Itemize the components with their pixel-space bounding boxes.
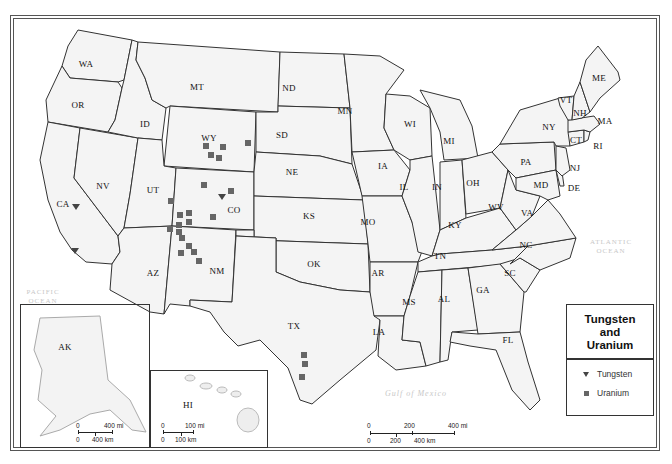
- uranium-marker-icon: [216, 155, 222, 161]
- main-scale-bar: 0 200 400 mi 0 200 400 km: [368, 422, 478, 446]
- label-SC: SC: [504, 268, 515, 278]
- label-VA: VA: [521, 208, 533, 218]
- label-OK: OK: [307, 259, 320, 269]
- label-ME: ME: [592, 73, 606, 83]
- state-AZ: [110, 226, 172, 314]
- label-AK: AK: [58, 342, 71, 352]
- uranium-marker-icon: [186, 210, 192, 216]
- uranium-marker-icon: [167, 226, 173, 232]
- label-IN: IN: [432, 182, 442, 192]
- label-IA: IA: [378, 161, 388, 171]
- label-WY: WY: [201, 133, 216, 143]
- label-ND: ND: [282, 83, 295, 93]
- uranium-marker-icon: [196, 258, 202, 264]
- label-NH: NH: [573, 108, 586, 118]
- uranium-marker-icon: [201, 182, 207, 188]
- state-NJ: [556, 146, 570, 176]
- label-CA: CA: [57, 199, 70, 209]
- state-FL: [450, 332, 540, 410]
- uranium-marker-icon: [208, 152, 214, 158]
- uranium-marker-icon: [176, 222, 182, 228]
- label-SD: SD: [276, 130, 288, 140]
- label-ID: ID: [140, 119, 150, 129]
- label-DE: DE: [568, 183, 580, 193]
- label-MI: MI: [443, 136, 454, 146]
- uranium-marker-icon: [299, 374, 305, 380]
- uranium-marker-icon: [177, 212, 183, 218]
- pacific-ocean-label: PACIFIC OCEAN: [26, 288, 59, 306]
- label-NM: NM: [210, 266, 225, 276]
- uranium-marker-icon: [179, 235, 185, 241]
- tungsten-marker-icon: [218, 194, 226, 200]
- state-CO: [172, 168, 254, 230]
- label-TX: TX: [288, 321, 300, 331]
- label-WA: WA: [79, 59, 93, 69]
- tungsten-marker-icon: [71, 248, 79, 254]
- label-LA: LA: [373, 327, 385, 337]
- uranium-marker-icon: [203, 143, 209, 149]
- tungsten-marker-icon: [72, 204, 80, 210]
- uranium-marker-icon: [191, 249, 197, 255]
- label-NV: NV: [96, 181, 109, 191]
- label-NE: NE: [286, 167, 298, 177]
- label-NY: NY: [542, 122, 555, 132]
- label-OR: OR: [72, 100, 85, 110]
- label-WI: WI: [404, 119, 416, 129]
- label-MN: MN: [338, 106, 353, 116]
- hawaii-scale-bar: 0 100 mi 0 100 km: [161, 422, 221, 444]
- label-HI: HI: [183, 400, 193, 410]
- state-WA: [62, 30, 132, 82]
- label-AZ: AZ: [147, 268, 159, 278]
- uranium-marker-icon: [186, 219, 192, 225]
- label-CT: CT: [570, 135, 582, 145]
- legend-item-tungsten: Tungsten: [581, 369, 653, 379]
- label-KY: KY: [448, 220, 461, 230]
- label-WV: WV: [488, 202, 503, 212]
- label-MO: MO: [361, 217, 376, 227]
- legend-item-uranium: Uranium: [581, 388, 653, 398]
- label-NC: NC: [520, 240, 533, 250]
- square-icon: [581, 391, 591, 396]
- label-FL: FL: [503, 335, 514, 345]
- label-AL: AL: [438, 294, 450, 304]
- atlantic-ocean-label: ATLANTIC OCEAN: [590, 238, 632, 256]
- uranium-marker-icon: [178, 250, 184, 256]
- label-OH: OH: [466, 178, 479, 188]
- label-GA: GA: [476, 285, 489, 295]
- label-CO: CO: [228, 205, 241, 215]
- label-UT: UT: [147, 185, 159, 195]
- label-NJ: NJ: [570, 163, 580, 173]
- legend-divider: [567, 358, 653, 360]
- uranium-marker-icon: [220, 144, 226, 150]
- label-MA: MA: [598, 116, 613, 126]
- uranium-marker-icon: [302, 361, 308, 367]
- uranium-marker-icon: [228, 188, 234, 194]
- alaska-scale-bar: 0 400 mi 0 400 km: [76, 422, 136, 444]
- state-ND: [278, 52, 350, 108]
- label-KS: KS: [303, 211, 315, 221]
- state-MT: [136, 42, 280, 112]
- label-PA: PA: [520, 157, 531, 167]
- gulf-of-mexico-label: Gulf of Mexico: [385, 389, 447, 398]
- label-MD: MD: [534, 180, 549, 190]
- legend: Tungsten and Uranium Tungsten Uranium: [566, 304, 654, 416]
- label-MT: MT: [190, 82, 204, 92]
- label-RI: RI: [593, 141, 602, 151]
- uranium-marker-icon: [168, 198, 174, 204]
- label-TN: TN: [434, 251, 446, 261]
- uranium-marker-icon: [301, 352, 307, 358]
- uranium-marker-icon: [245, 140, 251, 146]
- label-MS: MS: [402, 297, 415, 307]
- label-VT: VT: [560, 95, 572, 105]
- label-AR: AR: [372, 268, 385, 278]
- legend-title: Tungsten and Uranium: [567, 313, 653, 352]
- label-IL: IL: [400, 182, 409, 192]
- uranium-marker-icon: [210, 214, 216, 220]
- triangle-down-icon: [581, 372, 591, 377]
